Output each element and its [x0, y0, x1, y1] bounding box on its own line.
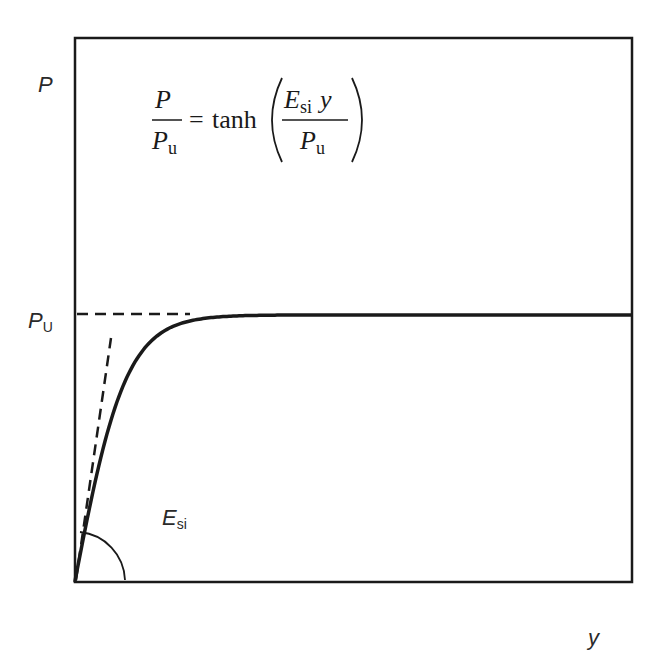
ultimate-load-label: PU [28, 308, 53, 335]
equation-arg-numerator: Esiy [283, 85, 332, 117]
equation-right-paren [352, 78, 362, 162]
y-axis-label: P [38, 72, 53, 97]
equation-function: tanh [212, 105, 257, 134]
equation-equals: = [189, 105, 204, 134]
equation-lhs-numerator: P [154, 85, 171, 114]
equation-left-paren [272, 78, 282, 162]
diagram-canvas: P y PU Esi P Pu = tanh Esiy Pu [0, 0, 662, 656]
tanh-equation: P Pu = tanh Esiy Pu [151, 78, 362, 162]
slope-angle-arc [80, 532, 125, 580]
equation-lhs-denominator: Pu [151, 126, 177, 158]
equation-arg-denominator: Pu [299, 126, 325, 158]
load-deflection-curve [75, 315, 631, 581]
x-axis-label: y [586, 625, 601, 650]
initial-stiffness-label: Esi [162, 505, 187, 532]
